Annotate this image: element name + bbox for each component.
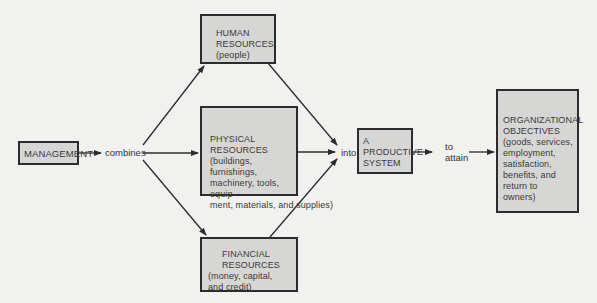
productive-system-line: A: [363, 136, 411, 147]
physical-resources-title: PHYSICAL RESOURCES: [210, 134, 296, 156]
financial-resources-title: FINANCIAL RESOURCES: [208, 249, 296, 271]
human-resources-title2: RESOURCES: [216, 39, 274, 50]
to-attain-line1: to: [445, 141, 468, 152]
physical-resources-line: ment, materials, and supplies): [210, 200, 296, 211]
physical-resources-box: PHYSICAL RESOURCES (buildings, furnishin…: [200, 106, 298, 196]
objectives-line: employment,: [503, 148, 577, 159]
objectives-line: ORGANIZATIONAL: [503, 115, 577, 126]
physical-resources-line: (buildings, furnishings,: [210, 156, 296, 178]
productive-system-line: PRODUCTIVE: [363, 147, 411, 158]
financial-resources-line: and credit): [208, 282, 296, 293]
human-resources-detail: (people): [216, 50, 274, 61]
human-resources-box: HUMAN RESOURCES (people): [200, 14, 276, 64]
objectives-line: (goods, services,: [503, 137, 577, 148]
objectives-line: OBJECTIVES: [503, 126, 577, 137]
objectives-line: satisfaction,: [503, 159, 577, 170]
productive-system-box: A PRODUCTIVE SYSTEM: [357, 128, 413, 174]
to-attain-label: to attain: [445, 141, 468, 163]
financial-resources-box: FINANCIAL RESOURCES (money, capital, and…: [200, 237, 298, 292]
objectives-line: return to: [503, 181, 577, 192]
objectives-line: benefits, and: [503, 170, 577, 181]
management-label: MANAGEMENT: [24, 148, 77, 159]
physical-resources-line: machinery, tools, equip-: [210, 178, 296, 200]
financial-resources-line: (money, capital,: [208, 271, 296, 282]
into-label: into: [341, 147, 356, 158]
objectives-line: owners): [503, 192, 577, 203]
to-attain-line2: attain: [445, 152, 468, 163]
combines-label: combines: [105, 147, 146, 158]
productive-system-line: SYSTEM: [363, 158, 411, 169]
organizational-objectives-box: ORGANIZATIONAL OBJECTIVES (goods, servic…: [496, 89, 579, 213]
human-resources-title: HUMAN: [216, 28, 274, 39]
management-box: MANAGEMENT: [18, 141, 79, 165]
